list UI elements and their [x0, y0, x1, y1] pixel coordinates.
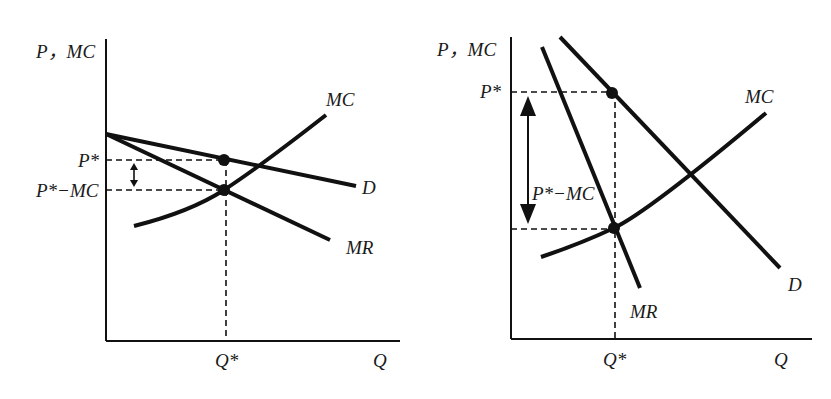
left-mc-curve — [134, 115, 326, 226]
right-x-axis-label: Q — [774, 350, 788, 369]
right-markup-arrow-icon — [520, 96, 536, 224]
right-markup-label: P*−MC — [532, 184, 594, 203]
right-demand-curve — [560, 37, 780, 268]
right-mr-mc-point — [608, 222, 620, 234]
left-x-axis-label: Q — [373, 351, 387, 370]
left-p-star-label: P* — [78, 151, 99, 170]
left-price-point — [218, 154, 230, 166]
left-d-curve-label: D — [362, 178, 376, 197]
left-panel-graphics — [106, 39, 400, 341]
diagram-canvas — [0, 0, 831, 399]
right-mc-curve-label: MC — [745, 87, 774, 106]
right-q-star-label: Q* — [603, 350, 626, 369]
right-y-axis-label: P，MC — [437, 40, 496, 59]
left-mr-mc-point — [218, 184, 230, 196]
left-y-axis-label: P，MC — [36, 42, 95, 61]
left-mc-curve-label: MC — [326, 90, 355, 109]
left-markup-arrow-icon — [130, 163, 138, 187]
right-d-curve-label: D — [788, 275, 802, 294]
right-price-point — [606, 87, 618, 99]
left-q-star-label: Q* — [215, 351, 238, 370]
right-p-star-label: P* — [480, 82, 501, 101]
left-demand-curve — [106, 134, 356, 186]
left-mr-curve-label: MR — [346, 238, 373, 257]
markup-elasticity-figure: P，MC MC P* P*−MC D MR Q* Q P，MC P* MC P*… — [0, 0, 831, 399]
left-markup-label: P*−MC — [36, 181, 98, 200]
right-mr-curve-label: MR — [630, 302, 657, 321]
